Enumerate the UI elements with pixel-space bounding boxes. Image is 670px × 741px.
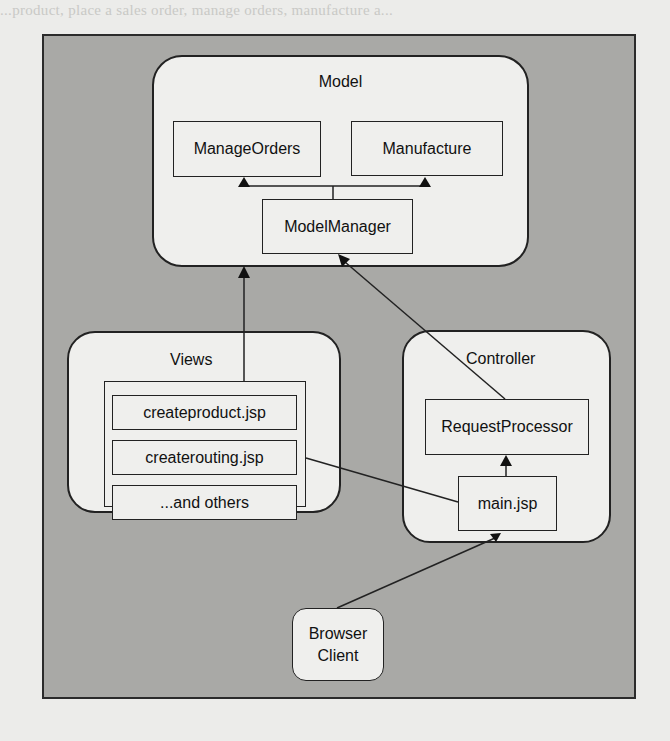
model-title: Model [152,73,529,91]
createproduct-jsp-box: createproduct.jsp [112,395,297,430]
and-others-box: ...and others [112,485,297,520]
browser-client-box: Browser Client [292,608,384,681]
manage-orders-box: ManageOrders [173,121,321,177]
controller-title: Controller [466,350,596,368]
page-bleed-text: ...product, place a sales order, manage … [0,2,670,22]
browser-client-label-line2: Client [318,645,359,667]
createrouting-jsp-box: createrouting.jsp [112,440,297,475]
main-jsp-box: main.jsp [458,476,557,531]
model-manager-box: ModelManager [262,199,413,254]
views-title: Views [170,351,320,369]
browser-client-label-line1: Browser [309,623,368,645]
request-processor-box: RequestProcessor [425,399,589,455]
manufacture-box: Manufacture [351,121,503,176]
